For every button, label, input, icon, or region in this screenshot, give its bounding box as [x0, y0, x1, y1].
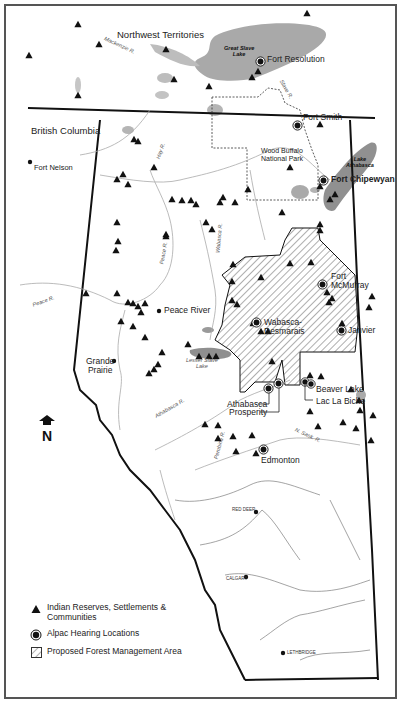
hearing-location-icon [30, 629, 42, 641]
legend-label-forest-area: Proposed Forest Management Area [47, 647, 182, 657]
label-wood-buffalo-park: Wood BuffaloNational Park [261, 147, 303, 162]
label-fort-mcmurray: Fort McMurray [331, 272, 371, 291]
label-lethbridge: LETHBRIDGE [287, 651, 316, 656]
label-calgary: CALGARY [226, 577, 247, 582]
label-prosperity: Prosperity [229, 408, 267, 417]
label-lac-la-biche: Lac La Biche [316, 397, 365, 406]
label-fort-smith: Fort Smith [303, 113, 342, 122]
hatched-area-icon [30, 647, 42, 659]
label-grande-prairie: GrandePrairie [86, 357, 114, 376]
legend-item-hearings: Alpac Hearing Locations [30, 629, 210, 641]
legend-item-reserves: Indian Reserves, Settlements & Communiti… [30, 603, 210, 623]
legend-label-hearings: Alpac Hearing Locations [47, 629, 139, 639]
forest-management-area [215, 228, 358, 392]
north-arrow: N [37, 411, 57, 443]
label-great-slave-lake: Great SlaveLake [224, 45, 254, 57]
label-red-deer: RED DEER [232, 508, 255, 513]
north-arrow-icon [39, 415, 55, 425]
label-beaver-lake: Beaver Lake [316, 385, 364, 394]
label-fort-nelson: Fort Nelson [34, 164, 73, 172]
label-wabasca-desmarais: Wabasca-Desmarais [264, 318, 304, 337]
triangle-icon [30, 603, 42, 615]
north-label: N [37, 429, 57, 443]
legend: Indian Reserves, Settlements & Communiti… [30, 603, 210, 665]
label-fort-chipewyan: Fort Chipewyan [331, 175, 395, 184]
label-edmonton: Edmonton [261, 456, 300, 465]
legend-item-forest-area: Proposed Forest Management Area [30, 647, 210, 659]
legend-label-reserves: Indian Reserves, Settlements & Communiti… [47, 603, 210, 623]
label-janvier: Janvier [348, 326, 375, 335]
label-lesser-slave-lake: Lesser SlaveLake [186, 357, 218, 369]
label-british-columbia: British Columbia [31, 126, 100, 136]
label-lake-athabasca: LakeAthabasca [346, 156, 374, 168]
label-peace-river: Peace River [164, 306, 210, 315]
label-fort-resolution: Fort Resolution [267, 55, 325, 64]
label-northwest-territories: Northwest Territories [117, 30, 204, 40]
